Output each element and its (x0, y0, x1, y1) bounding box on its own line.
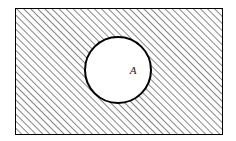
circle-A-outline (85, 37, 151, 103)
figure-container: A (0, 0, 236, 141)
inner-circle-group: A (85, 37, 151, 103)
circle-A-label: A (129, 64, 137, 76)
figure-svg: A (0, 0, 236, 141)
